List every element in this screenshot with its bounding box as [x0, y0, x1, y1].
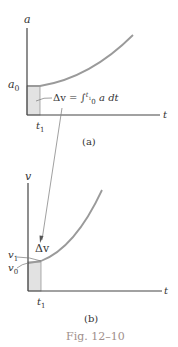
delta-v-label: Δv [35, 243, 49, 254]
figure-caption: Fig. 12–10 [66, 331, 125, 342]
a0-label: a0 [8, 79, 19, 93]
b-t1-label: t1 [37, 297, 46, 310]
area-under-a-curve [27, 86, 40, 115]
a-t1-label: t1 [36, 121, 45, 134]
acceleration-curve [27, 35, 133, 86]
v-axis-label: v [25, 171, 31, 182]
integral-lower: 0 [91, 98, 95, 106]
panel-a-label: (a) [82, 137, 96, 147]
panel-b [17, 183, 162, 291]
leader-line-v0 [17, 263, 28, 268]
a-axis-label: a [24, 14, 31, 25]
connector-arrow-line [42, 108, 62, 240]
panel-b-label: (b) [84, 314, 98, 324]
v0-label: v0 [8, 263, 18, 276]
integral-label: Δv = ∫t10 a dt [53, 92, 119, 106]
delta-v-eq: Δv = ∫ [53, 92, 86, 103]
delta-v-region [28, 262, 41, 291]
a-t-axis-label: t [163, 110, 167, 120]
b-t-axis-label: t [164, 286, 168, 296]
integrand: a dt [99, 92, 119, 103]
leader-line-v1 [17, 257, 41, 261]
